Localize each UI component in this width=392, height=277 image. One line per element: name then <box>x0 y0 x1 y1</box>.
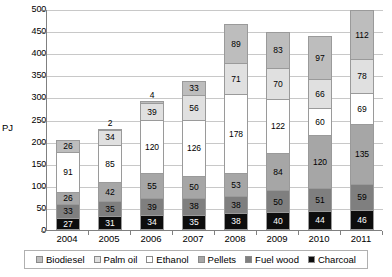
bar-2010[interactable]: 4451120606697 <box>308 36 332 230</box>
bar-segment-value: 35 <box>189 218 198 227</box>
bar-segment-pellets: 50 <box>182 176 206 198</box>
x-axis-tick-label-2005: 2005 <box>87 234 131 244</box>
bar-segment-value: 69 <box>357 105 366 114</box>
bar-segment-charcoal: 27 <box>56 218 80 230</box>
bar-segment-biodiesel: 4 <box>140 101 164 103</box>
legend-item-fuel-wood[interactable]: Fuel wood <box>245 255 299 265</box>
bar-segment-value: 46 <box>357 216 366 225</box>
bar-segment-value: 50 <box>273 198 282 207</box>
bar-segment-palm-oil: 66 <box>308 79 332 108</box>
y-axis-tick-label: 200 <box>6 138 46 147</box>
bar-segment-value: 53 <box>231 181 240 190</box>
bar-segment-ethanol: 122 <box>266 99 290 153</box>
bar-2006[interactable]: 343955120394 <box>140 101 164 230</box>
gridline <box>47 76 383 77</box>
bar-segment-biodiesel: 2 <box>98 129 122 130</box>
bar-segment-ethanol: 91 <box>56 152 80 192</box>
bar-segment-value: 38 <box>189 202 198 211</box>
bar-segment-biodiesel: 89 <box>224 24 248 63</box>
x-axis-tick-label-2007: 2007 <box>171 234 215 244</box>
bar-segment-charcoal: 38 <box>224 213 248 230</box>
x-axis-tick-label-2011: 2011 <box>339 234 383 244</box>
bar-segment-value: 39 <box>147 108 156 117</box>
bar-2008[interactable]: 3838531787189 <box>224 24 248 230</box>
bar-segment-fuel-wood: 59 <box>350 184 374 210</box>
bar-segment-ethanol: 85 <box>98 145 122 183</box>
bar-segment-value: 56 <box>189 104 198 113</box>
bar-segment-ethanol: 178 <box>224 94 248 173</box>
x-axis-tick-label-2010: 2010 <box>297 234 341 244</box>
bar-segment-biodiesel: 83 <box>266 32 290 69</box>
bar-segment-value: 26 <box>63 194 72 203</box>
legend-swatch-icon <box>198 256 205 263</box>
bar-segment-biodiesel: 33 <box>182 81 206 96</box>
bar-segment-value: 84 <box>273 168 282 177</box>
bar-segment-value: 26 <box>63 142 72 151</box>
bar-segment-value: 85 <box>105 160 114 169</box>
bar-segment-value: 120 <box>145 143 159 152</box>
legend-swatch-icon <box>245 256 252 263</box>
bar-segment-value: 35 <box>105 205 114 214</box>
bar-segment-pellets: 55 <box>140 173 164 197</box>
bar-2007[interactable]: 3538501265633 <box>182 81 206 230</box>
y-axis-tick-label: 300 <box>6 93 46 102</box>
bar-segment-value: 34 <box>105 133 114 142</box>
bar-segment-value: 27 <box>63 220 72 229</box>
bar-segment-charcoal: 31 <box>98 216 122 230</box>
bar-segment-value: 89 <box>231 40 240 49</box>
bar-2011[interactable]: 46591356978112 <box>350 10 374 231</box>
legend-swatch-icon <box>308 256 315 263</box>
bar-segment-value: 38 <box>231 217 240 226</box>
bar-segment-palm-oil: 39 <box>140 103 164 120</box>
y-axis-tick-label: 50 <box>6 204 46 213</box>
gridline <box>47 54 383 55</box>
bar-segment-fuel-wood: 39 <box>140 198 164 215</box>
gridline <box>47 98 383 99</box>
bar-segment-palm-oil: 34 <box>98 130 122 145</box>
legend-item-ethanol[interactable]: Ethanol <box>146 255 188 265</box>
legend-item-charcoal[interactable]: Charcoal <box>308 255 356 265</box>
legend-label: Fuel wood <box>255 255 299 265</box>
bar-segment-charcoal: 46 <box>350 210 374 230</box>
bar-2004[interactable]: 27332691026 <box>56 140 80 230</box>
bar-segment-value: 44 <box>315 216 324 225</box>
legend-label: Ethanol <box>156 255 188 265</box>
bar-segment-ethanol: 126 <box>182 120 206 176</box>
bar-segment-fuel-wood: 38 <box>182 198 206 215</box>
legend-label: Palm oil <box>104 255 138 265</box>
y-axis-tick-label: 400 <box>6 49 46 58</box>
bar-segment-pellets: 120 <box>308 135 332 188</box>
gridline <box>47 32 383 33</box>
legend-item-pellets[interactable]: Pellets <box>198 255 237 265</box>
legend-item-palm-oil[interactable]: Palm oil <box>94 255 138 265</box>
bar-segment-ethanol: 60 <box>308 108 332 135</box>
legend-label: Biodiesel <box>46 255 85 265</box>
bar-segment-value: 178 <box>229 130 243 139</box>
y-axis-tick-label: 100 <box>6 182 46 191</box>
bar-segment-ethanol: 69 <box>350 93 374 123</box>
bar-segment-value: 126 <box>187 144 201 153</box>
y-axis-tick-label: 450 <box>6 27 46 36</box>
bar-segment-pellets: 84 <box>266 153 290 190</box>
bar-segment-value: 40 <box>273 217 282 226</box>
bar-segment-pellets: 26 <box>56 192 80 203</box>
bar-segment-palm-oil: 56 <box>182 95 206 120</box>
bar-segment-value: 122 <box>271 122 285 131</box>
y-axis-tick-mark <box>41 231 46 232</box>
bar-segment-value: 66 <box>315 90 324 99</box>
bar-segment-value: 33 <box>189 84 198 93</box>
bar-segment-charcoal: 44 <box>308 211 332 230</box>
bar-segment-value: 97 <box>315 54 324 63</box>
bar-segment-palm-oil: 70 <box>266 68 290 99</box>
bar-segment-value: 33 <box>63 207 72 216</box>
y-axis-title: PJ <box>2 123 13 133</box>
bar-segment-value: 83 <box>273 46 282 55</box>
bar-segment-value: 42 <box>105 188 114 197</box>
y-axis-tick-label: 350 <box>6 71 46 80</box>
x-axis-tick-label-2006: 2006 <box>129 234 173 244</box>
legend-item-biodiesel[interactable]: Biodiesel <box>36 255 85 265</box>
bar-segment-fuel-wood: 50 <box>266 190 290 212</box>
bar-2009[interactable]: 4050841227083 <box>266 32 290 230</box>
bar-2005[interactable]: 31354285342 <box>98 129 122 230</box>
bar-segment-palm-oil: 71 <box>224 63 248 94</box>
